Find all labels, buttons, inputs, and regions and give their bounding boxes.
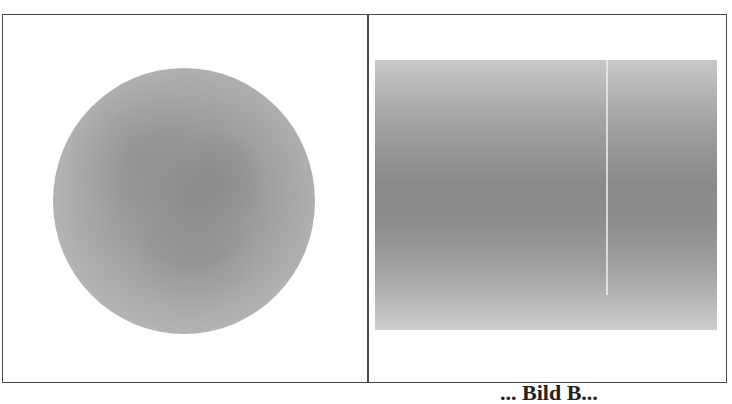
figure-caption-fragment: ... Bild B...: [500, 380, 732, 404]
left-panel-disk-image: [53, 68, 315, 334]
rect-vertical-line: [606, 60, 608, 295]
right-panel-rect-image: [375, 60, 717, 330]
panel-divider: [367, 15, 369, 382]
